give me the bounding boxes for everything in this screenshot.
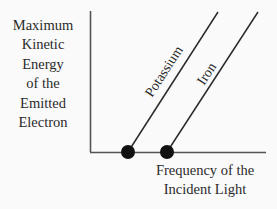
- iron-label: Iron: [194, 60, 219, 88]
- iron-line: [167, 12, 258, 152]
- x-axis-label-line-1: Frequency of the: [130, 161, 277, 180]
- potassium-threshold-marker: [121, 145, 135, 159]
- x-axis-label-line-2: Incident Light: [130, 180, 277, 199]
- iron-threshold-marker: [160, 145, 174, 159]
- x-axis-label: Frequency of the Incident Light: [130, 161, 277, 200]
